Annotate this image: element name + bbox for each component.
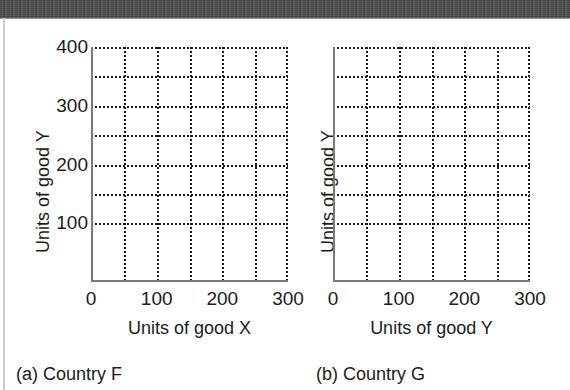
panel-a-xtick-0: 0 (86, 288, 97, 310)
panel-b-y-axis-spine (333, 47, 335, 282)
panel-b-xtick-200: 200 (448, 288, 480, 310)
panel-b-xtick-300: 300 (514, 288, 546, 310)
panel-country-g: Units of good Y 0 100 200 300 Units of g… (300, 0, 570, 390)
panel-b-xtick-0: 0 (328, 288, 339, 310)
panel-a-ytick-400: 400 (56, 36, 88, 58)
panel-b-x-axis-title: Units of good Y (333, 318, 530, 339)
panel-a-x-axis-spine (91, 280, 288, 282)
panel-a-ytick-300: 300 (56, 95, 88, 117)
panel-b-plot-area (333, 47, 530, 282)
panel-b-x-axis-spine (333, 280, 530, 282)
figure-canvas: Units of good Y 400 300 200 100 0 100 20… (0, 0, 570, 390)
panel-a-ytick-100: 100 (56, 212, 88, 234)
panel-a-caption: (a) Country F (16, 364, 122, 385)
panel-a-xtick-100: 100 (141, 288, 173, 310)
panel-b-gridlines (333, 47, 530, 282)
panel-a-gridlines (91, 47, 288, 282)
panel-b-xtick-100: 100 (383, 288, 415, 310)
panel-a-ytick-200: 200 (56, 154, 88, 176)
panel-country-f: Units of good Y 400 300 200 100 0 100 20… (0, 0, 300, 390)
panel-a-y-ticks: 400 300 200 100 (42, 47, 88, 282)
panel-a-y-axis-spine (91, 47, 93, 282)
panel-a-xtick-200: 200 (206, 288, 238, 310)
panel-b-caption: (b) Country G (316, 364, 425, 385)
panel-a-x-axis-title: Units of good X (91, 318, 288, 339)
panel-a-plot-area (91, 47, 288, 282)
